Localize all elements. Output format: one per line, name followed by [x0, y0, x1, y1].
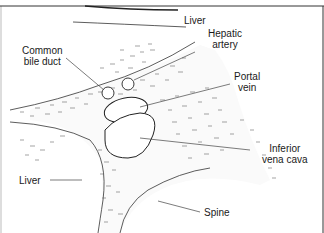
- label-ha-line1: Hepatic: [208, 28, 242, 39]
- liver-top-leader: [73, 22, 186, 27]
- label-liver-left: Liver: [19, 175, 41, 186]
- label-pv-line1: Portal: [234, 71, 260, 82]
- label-ivc-line1: Inferior: [262, 143, 308, 154]
- label-pv-line2: vein: [234, 82, 260, 93]
- label-ha-line2: artery: [208, 39, 242, 50]
- label-portal-vein: Portal vein: [234, 71, 260, 93]
- label-spine: Spine: [204, 207, 230, 218]
- diagram-frame: Liver Common bile duct Hepatic artery Po…: [0, 0, 324, 233]
- label-common-bile-duct: Common bile duct: [22, 45, 63, 67]
- label-inferior-vena-cava: Inferior vena cava: [262, 143, 308, 165]
- label-cbd-line2: bile duct: [22, 56, 63, 67]
- leader-cbd: [66, 58, 104, 90]
- hepatic-artery-shape: [122, 78, 134, 90]
- label-hepatic-artery: Hepatic artery: [208, 28, 242, 50]
- leader-spine: [158, 201, 200, 212]
- anatomy-drawing: [0, 0, 324, 233]
- label-liver-top: Liver: [184, 15, 206, 26]
- label-ivc-line2: vena cava: [262, 154, 308, 165]
- label-cbd-line1: Common: [22, 45, 63, 56]
- liver-top-contour: [85, 6, 178, 10]
- common-bile-duct-shape: [102, 87, 114, 99]
